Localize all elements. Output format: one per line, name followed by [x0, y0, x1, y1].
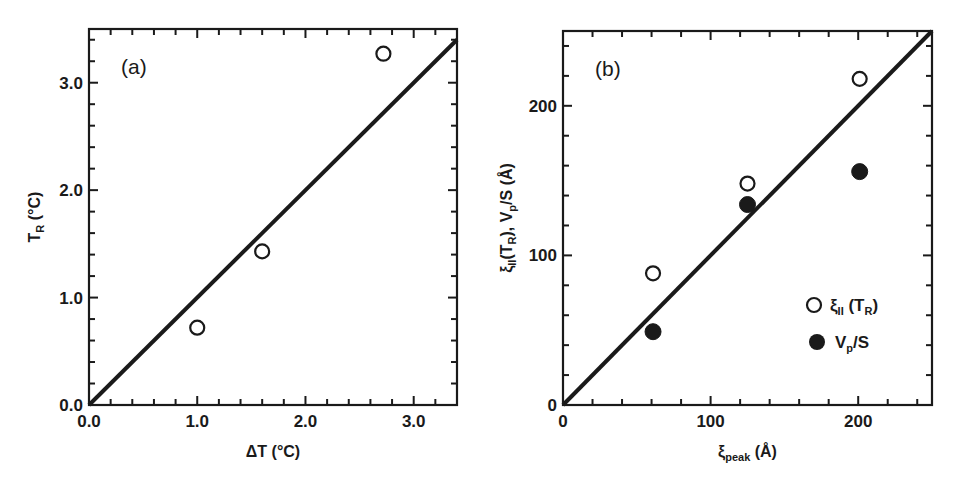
- filled-circle-marker-icon: [809, 334, 825, 350]
- figure-canvas: 0.01.02.03.00.01.02.03.0 (a) ΔT (°C) TR …: [0, 0, 957, 481]
- open-circle-marker-icon: [255, 244, 269, 258]
- open-circle-marker-icon: [376, 47, 390, 61]
- panel-a: 0.01.02.03.00.01.02.03.0 (a) ΔT (°C) TR …: [26, 29, 457, 460]
- filled-circle-marker-icon: [740, 197, 756, 213]
- legend-label-xi-parallel: ξII (TR): [830, 296, 878, 317]
- y-tick-label: 1.0: [59, 289, 83, 308]
- panel-a-label: (a): [121, 55, 147, 78]
- open-circle-marker-icon: [190, 321, 204, 335]
- y-tick-label: 0.0: [59, 396, 83, 415]
- filled-circle-marker-icon: [645, 324, 661, 340]
- panel-a-x-axis-label: ΔT (°C): [246, 443, 300, 460]
- open-circle-marker-icon: [807, 298, 821, 312]
- y-tick-label: 2.0: [59, 181, 83, 200]
- legend-entry-vp-s: Vp/S: [809, 333, 869, 354]
- y-tick-label: 0: [548, 396, 557, 415]
- legend-entry-xi-parallel: ξII (TR): [807, 296, 878, 317]
- panel-b-y-axis-label: ξII(TR), Vp/S (Å): [497, 163, 518, 273]
- x-tick-label: 100: [696, 412, 724, 431]
- panel-b-reference-line: [563, 31, 932, 405]
- open-circle-marker-icon: [853, 72, 867, 86]
- x-tick-label: 3.0: [402, 412, 426, 431]
- panel-a-y-axis-label: TR (°C): [26, 192, 46, 243]
- open-circle-marker-icon: [646, 266, 660, 280]
- filled-circle-marker-icon: [852, 164, 868, 180]
- panel-b-x-axis-label: ξpeak (Å): [718, 442, 777, 463]
- x-tick-label: 2.0: [294, 412, 318, 431]
- x-tick-label: 200: [844, 412, 872, 431]
- panel-a-data-points: [190, 47, 390, 335]
- panel-b-legend: ξII (TR) Vp/S: [807, 296, 878, 354]
- y-tick-label: 3.0: [59, 74, 83, 93]
- figure: 0.01.02.03.00.01.02.03.0 (a) ΔT (°C) TR …: [0, 0, 957, 481]
- panel-b-label: (b): [595, 57, 621, 80]
- x-tick-label: 1.0: [185, 412, 209, 431]
- x-tick-label: 0: [558, 412, 567, 431]
- y-tick-label: 200: [529, 97, 557, 116]
- legend-label-vp-s: Vp/S: [835, 333, 869, 354]
- panel-a-reference-line: [89, 40, 457, 405]
- y-tick-label: 100: [529, 246, 557, 265]
- open-circle-marker-icon: [741, 177, 755, 191]
- panel-b: 01002000100200 (b) ξpeak (Å) ξII(TR), Vp…: [497, 31, 932, 463]
